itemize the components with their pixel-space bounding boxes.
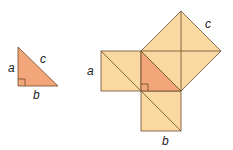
label-a: a [8, 61, 15, 75]
label-b: b [162, 134, 169, 148]
label-b: b [33, 88, 40, 102]
squares-figure: a b c [87, 11, 221, 148]
label-c: c [40, 52, 46, 66]
square-a [101, 51, 141, 91]
label-c: c [205, 17, 211, 31]
label-a: a [87, 64, 94, 78]
small-triangle: a c b [8, 47, 58, 102]
pythagoras-diagram: a c b a b c [0, 0, 233, 150]
right-triangle [18, 47, 58, 86]
square-b [141, 91, 181, 131]
